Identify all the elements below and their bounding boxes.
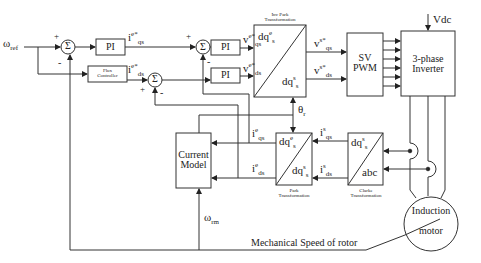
clarke-bottom: abc <box>362 167 377 178</box>
sum2-symbol: Σ <box>197 42 209 52</box>
mech-speed-label: Mechanical Speed of rotor <box>251 238 357 248</box>
inv-park-top: dqes <box>258 30 275 45</box>
sum3-minus: - <box>160 88 163 98</box>
vdc-label: Vdc <box>433 14 451 25</box>
park-top: dqes <box>279 135 296 150</box>
clarke-top: dqss <box>351 136 367 151</box>
vds-s-label: vs*ds <box>314 64 332 79</box>
pi-speed-block: PI <box>96 42 125 52</box>
inverter-block: 3-phase Inverter <box>401 54 455 74</box>
park-bottom: dqss <box>292 164 308 179</box>
iqs-ref-label: ie*qs <box>128 31 144 46</box>
clarke-caption: Clarke Transformation <box>342 188 390 198</box>
omega-rm-label: ωrm <box>204 212 219 226</box>
vqs-s-label: vs*qs <box>314 37 332 52</box>
pi-q-block: PI <box>211 42 240 52</box>
sum3-symbol: Σ <box>149 74 161 84</box>
theta-r-label: θr <box>298 104 306 118</box>
sum3-plus: + <box>140 85 145 94</box>
sv-pwm-block: SV PWM <box>347 53 383 73</box>
speed-ref-label: ωref <box>3 38 18 52</box>
vds-e-label: ve*ds <box>243 62 261 77</box>
sum2-plus: + <box>186 32 191 41</box>
flux-controller-block: Flux Controller <box>88 68 127 78</box>
park-caption: Park Transformation <box>270 188 318 198</box>
ids-ref-label: ie*ds <box>128 63 144 78</box>
iqs-s-label: isqs <box>320 126 332 141</box>
current-model-block: Current Model <box>176 150 211 170</box>
inv-park-caption: Inv Park Transformation <box>252 12 308 22</box>
ids-e-label: ieds <box>252 162 264 177</box>
pi-d-block: PI <box>211 70 240 80</box>
ids-s-label: isds <box>320 163 332 178</box>
sum1-symbol: Σ <box>62 41 74 51</box>
sum2-minus: - <box>207 57 210 67</box>
inv-park-bottom: dqss <box>282 75 298 90</box>
foc-diagram: ωref + - Σ PI Flux Controller ie*qs ie*d… <box>0 0 481 263</box>
sum1-minus: - <box>58 58 61 68</box>
sum1-plus: + <box>54 32 59 41</box>
induction-motor: Induction motor <box>406 206 456 236</box>
iqs-e-label: ieqs <box>252 127 264 142</box>
